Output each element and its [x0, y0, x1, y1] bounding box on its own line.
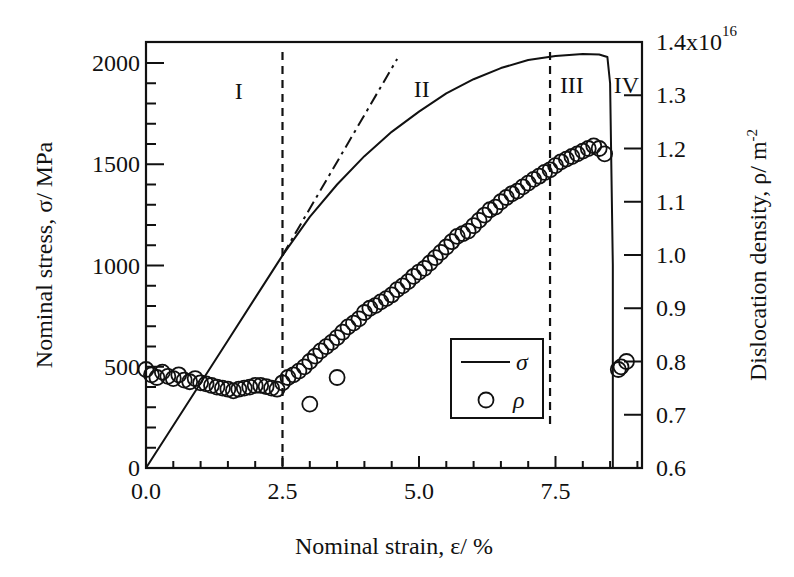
x-tick-label: 0.0	[131, 478, 161, 504]
y2-tick-label: 0.7	[656, 402, 686, 428]
y-tick-label: 500	[104, 354, 140, 380]
legend-label-sigma: σ	[516, 349, 529, 375]
y-tick-label: 0	[128, 455, 140, 481]
plot-frame	[146, 42, 642, 468]
x-tick-label: 2.5	[268, 478, 298, 504]
x-axis-label: Nominal strain, ε/ %	[295, 533, 493, 559]
dislocation-density-points	[139, 138, 634, 411]
y-right-multiplier-exponent: 16	[722, 23, 738, 39]
stress-strain-dislocation-chart: 0.02.55.07.5 0500100015002000 0.60.70.80…	[0, 0, 794, 577]
y-left-axis-label: Nominal stress, σ/ MPa	[31, 142, 57, 369]
x-tick-label: 7.5	[541, 478, 571, 504]
data-series	[139, 54, 634, 468]
y2-tick-label: 0.6	[656, 455, 686, 481]
y-right-axis-label: Dislocation density, ρ/ m-2	[744, 129, 771, 381]
y2-tick-label: 1.2	[656, 136, 686, 162]
y-tick-label: 1500	[92, 151, 140, 177]
y2-tick-label: 1.3	[656, 82, 686, 108]
legend-label-rho: ρ	[512, 387, 525, 413]
y-right-multiplier: 1.4x1016	[656, 23, 738, 55]
y-right-axis-label-sup: -2	[744, 129, 760, 142]
region-label-II: II	[414, 76, 430, 102]
region-label-III: III	[560, 72, 584, 98]
y2-tick-label: 1.1	[656, 189, 686, 215]
plot-area-border	[146, 42, 642, 468]
legend-box	[451, 339, 543, 418]
rho-data-point	[302, 397, 317, 412]
y-right-multiplier-base: 1.4x10	[656, 29, 722, 55]
region-label-I: I	[235, 78, 243, 104]
y-tick-label: 2000	[92, 50, 140, 76]
y2-tick-label: 1.0	[656, 242, 686, 268]
y-right-axis-ticks: 0.60.70.80.91.01.11.21.3	[624, 82, 686, 481]
legend: σ ρ	[451, 339, 543, 418]
y2-tick-label: 0.9	[656, 295, 686, 321]
y-tick-label: 1000	[92, 253, 140, 279]
y-left-axis-ticks: 0500100015002000	[92, 50, 164, 481]
x-axis-ticks: 0.02.55.07.5	[131, 456, 637, 504]
y-right-axis-label-text: Dislocation density, ρ/ m	[745, 141, 771, 381]
rho-data-point	[330, 370, 345, 385]
y2-tick-label: 0.8	[656, 349, 686, 375]
elastic-extrapolation-line	[283, 59, 398, 255]
region-label-IV: IV	[614, 72, 640, 98]
x-tick-label: 5.0	[404, 478, 434, 504]
